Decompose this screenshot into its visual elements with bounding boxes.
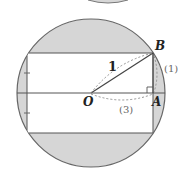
- label-arc-3: (3): [119, 104, 133, 115]
- label-radius: 1: [108, 59, 117, 74]
- label-O: O: [83, 95, 94, 109]
- circle-diagram: B O A 1 (1) (3): [0, 0, 185, 177]
- label-B: B: [154, 39, 165, 53]
- label-A: A: [151, 95, 161, 109]
- partial-circle-top: [88, 0, 128, 3]
- label-arc-1: (1): [164, 63, 178, 74]
